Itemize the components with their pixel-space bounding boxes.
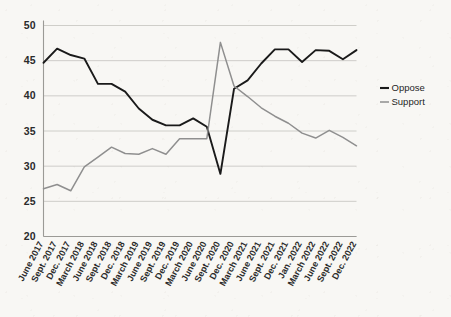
y-tick-label: 45: [24, 54, 36, 66]
series-line-support: [44, 42, 357, 190]
y-axis: 50454035302520: [24, 19, 44, 242]
y-tick-label: 30: [24, 160, 36, 172]
chart-legend: OpposeSupport: [380, 82, 425, 107]
legend-label-support: Support: [392, 96, 426, 107]
x-axis: June 2017Sept. 2017Dec. 2017March 2018Ju…: [16, 237, 358, 288]
y-tick-label: 35: [24, 125, 36, 137]
series-line-oppose: [44, 49, 357, 174]
y-tick-label: 40: [24, 89, 36, 101]
legend-label-oppose: Oppose: [392, 82, 425, 93]
chart-container: 50454035302520 June 2017Sept. 2017Dec. 2…: [0, 0, 451, 317]
y-tick-label: 20: [24, 230, 36, 242]
y-tick-label: 25: [24, 195, 36, 207]
y-tick-label: 50: [24, 19, 36, 31]
series-lines: [44, 42, 357, 190]
gridlines: [44, 26, 357, 237]
line-chart: 50454035302520 June 2017Sept. 2017Dec. 2…: [0, 0, 451, 317]
